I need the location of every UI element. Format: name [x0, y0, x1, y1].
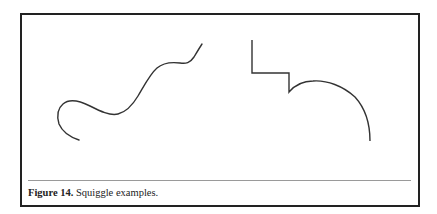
figure-caption: Figure 14. Squiggle examples.	[28, 187, 158, 198]
freeform-squiggle	[58, 44, 202, 140]
caption-divider	[28, 180, 411, 181]
caption-label: Figure 14.	[28, 187, 73, 198]
step-and-arc	[252, 40, 370, 141]
caption-text: Squiggle examples.	[73, 187, 158, 198]
figure-canvas	[0, 0, 437, 214]
